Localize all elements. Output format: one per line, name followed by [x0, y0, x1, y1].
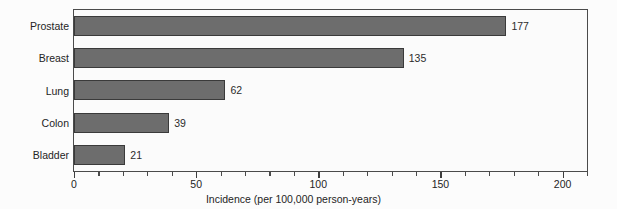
- bar-colon[interactable]: [74, 113, 169, 133]
- category-label-breast: Breast: [1, 51, 69, 65]
- x-tick-minor: [245, 172, 246, 176]
- x-tick-label: 150: [432, 178, 450, 190]
- x-tick-minor: [147, 172, 148, 176]
- bar-band: 62: [74, 74, 587, 106]
- bar-band: 177: [74, 10, 587, 42]
- category-label-bladder: Bladder: [1, 148, 69, 162]
- x-tick-label: 0: [71, 178, 77, 190]
- x-tick-minor: [587, 172, 588, 176]
- category-label-prostate: Prostate: [1, 19, 69, 33]
- x-tick-label: 50: [190, 178, 202, 190]
- x-tick-minor: [343, 172, 344, 176]
- x-tick-minor: [172, 172, 173, 176]
- x-tick-minor: [367, 172, 368, 176]
- bar-value-label: 177: [506, 16, 529, 36]
- x-tick-minor: [294, 172, 295, 176]
- x-tick-minor: [465, 172, 466, 176]
- x-tick-minor: [392, 172, 393, 176]
- x-axis-tick-labels: 050100150200: [0, 178, 617, 192]
- bar-value-label: 62: [225, 80, 242, 100]
- bar-prostate[interactable]: [74, 16, 506, 36]
- bar-band: 21: [74, 139, 587, 171]
- x-tick-minor: [514, 172, 515, 176]
- x-tick-label: 200: [554, 178, 572, 190]
- bar-value-label: 135: [404, 48, 427, 68]
- bar-value-label: 21: [125, 145, 142, 165]
- bar-value-label: 39: [169, 113, 186, 133]
- y-axis-category-labels: ProstateBreastLungColonBladder: [0, 10, 69, 171]
- x-tick-minor: [489, 172, 490, 176]
- bar-bladder[interactable]: [74, 145, 125, 165]
- x-axis-title: Incidence (per 100,000 person-years): [0, 193, 617, 205]
- category-label-colon: Colon: [1, 116, 69, 130]
- bar-lung[interactable]: [74, 80, 225, 100]
- x-axis-title-text: Incidence (per 100,000 person-years): [206, 193, 381, 205]
- bar-chart-figure: ProstateBreastLungColonBladder 177135623…: [0, 0, 617, 209]
- bar-band: 135: [74, 42, 587, 74]
- category-label-lung: Lung: [1, 84, 69, 98]
- bar-breast[interactable]: [74, 48, 404, 68]
- x-tick-minor: [538, 172, 539, 176]
- x-tick-minor: [269, 172, 270, 176]
- x-tick-minor: [98, 172, 99, 176]
- x-tick-minor: [416, 172, 417, 176]
- x-tick-label: 100: [310, 178, 328, 190]
- x-tick-minor: [123, 172, 124, 176]
- bars-layer: 177135623921: [74, 10, 587, 171]
- bar-band: 39: [74, 107, 587, 139]
- x-tick-minor: [221, 172, 222, 176]
